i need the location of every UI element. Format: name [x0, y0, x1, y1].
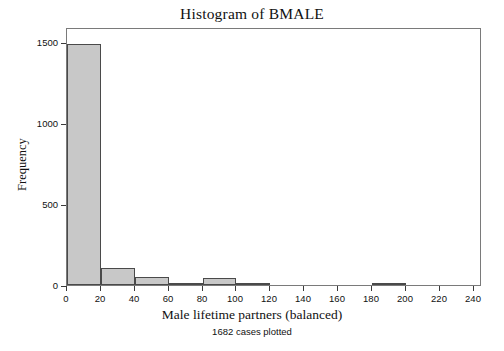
histogram-bar	[236, 283, 270, 285]
x-tick-mark	[269, 286, 270, 291]
y-tick-mark	[61, 124, 66, 125]
x-tick-mark	[100, 286, 101, 291]
y-tick-label: 0	[0, 280, 58, 291]
histogram-bar	[169, 283, 203, 285]
y-tick-label: 1000	[0, 118, 58, 129]
histogram-bar	[101, 268, 135, 285]
histogram-bar	[372, 283, 406, 285]
x-tick-mark	[134, 286, 135, 291]
plot-area	[67, 29, 480, 285]
x-tick-mark	[202, 286, 203, 291]
histogram-bar	[67, 44, 101, 285]
x-tick-mark	[337, 286, 338, 291]
x-axis-title: Male lifetime partners (balanced)	[0, 307, 504, 323]
histogram-bar	[135, 277, 169, 285]
x-tick-mark	[235, 286, 236, 291]
x-tick-mark	[473, 286, 474, 291]
x-tick-mark	[439, 286, 440, 291]
histogram-bar	[203, 278, 237, 285]
y-tick-mark	[61, 205, 66, 206]
histogram-figure: Histogram of BMALE Frequency 05001000150…	[0, 0, 504, 351]
x-tick-mark	[66, 286, 67, 291]
chart-title: Histogram of BMALE	[0, 5, 504, 23]
y-tick-mark	[61, 43, 66, 44]
x-tick-mark	[303, 286, 304, 291]
x-tick-label: 240	[453, 293, 493, 304]
y-tick-label: 500	[0, 199, 58, 210]
plot-frame	[66, 28, 481, 286]
x-tick-mark	[405, 286, 406, 291]
x-tick-mark	[371, 286, 372, 291]
x-tick-mark	[168, 286, 169, 291]
chart-subtitle: 1682 cases plotted	[0, 326, 504, 337]
y-tick-label: 1500	[0, 37, 58, 48]
